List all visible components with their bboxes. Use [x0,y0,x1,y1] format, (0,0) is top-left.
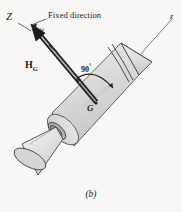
nozzle-cone [11,127,63,175]
angular-momentum-subscript: G [33,65,38,73]
fixed-direction-label: Fixed direction [48,11,101,20]
right-angle-label: 90° [81,63,91,74]
degree-symbol: ° [89,63,91,69]
omega-label: ω [40,26,44,32]
center-of-mass-label: G [87,104,94,113]
right-angle-value: 90 [81,65,89,74]
axis-label-z: z [170,13,173,21]
figure-caption: (b) [0,190,182,200]
axis-label-Z: Z [6,11,12,22]
figure-container: Z Fixed direction ω HG 90° G z (b) [0,0,182,212]
angular-momentum-symbol: H [25,59,33,70]
angular-momentum-label: HG [25,60,38,73]
